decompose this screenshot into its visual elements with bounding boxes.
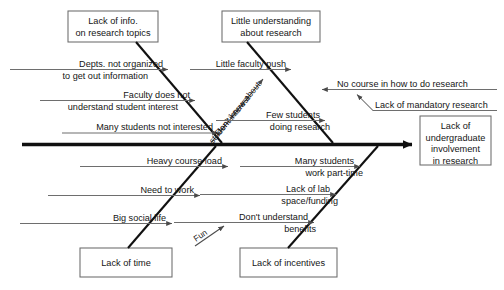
cause-label-many-students-work-part-time-line1: Many students [295, 156, 355, 166]
cause-big-social-life[interactable]: Big social life [20, 213, 172, 224]
cause-label-no-course-in-how-to-do-research-line1: No course in how to do research [337, 79, 468, 89]
cause-faculty-does-not-understand[interactable]: Faculty does not understand student inte… [40, 90, 195, 112]
cause-label-little-faculty-push-line1: Little faculty push [216, 59, 286, 69]
category-box-lack-of-incentives[interactable]: Lack of incentives [240, 248, 337, 277]
fishbone-diagram: Lack of undergraduate involvement in res… [0, 0, 504, 290]
cause-label-few-students-doing-research-line2: doing research [270, 122, 330, 132]
cause-many-students-work-part-time[interactable]: Many students work part-time [240, 156, 363, 178]
cause-label-need-to-work-line1: Need to work [140, 185, 194, 195]
cause-label-lack-of-lab-space-funding-line1: Lack of lab [286, 184, 330, 194]
cause-label-heavy-course-load-line1: Heavy course load [147, 156, 222, 166]
category-box-lack-of-info[interactable]: Lack of info. on research topics [68, 11, 158, 42]
cause-dont-understand-benefits[interactable]: Don't understand benefits [174, 212, 316, 234]
cause-no-course-in-how-to-do-research[interactable]: No course in how to do research [322, 79, 497, 90]
cause-label-many-students-work-part-time-line2: work part-time [304, 168, 363, 178]
cause-label-faculty-does-not-understand-line1: Faculty does not [123, 90, 190, 100]
effect-label-line2: undergraduate [426, 133, 486, 143]
cause-depts-not-organized[interactable]: Depts. not organized to get out informat… [10, 59, 168, 81]
cause-lack-of-mandatory-research[interactable]: Lack of mandatory research [357, 95, 497, 111]
effect-label-line3: involvement [431, 144, 480, 154]
cause-dont-know-about-student-interest[interactable]: Don't know about student interest [207, 79, 263, 145]
cause-label-lack-of-lab-space-funding-line2: space/funding [281, 196, 338, 206]
cause-label-fun-line1: Fun [191, 227, 209, 244]
cause-heavy-course-load[interactable]: Heavy course load [80, 156, 228, 167]
category-label-lack-of-info-line2: on research topics [75, 28, 150, 38]
cause-label-faculty-does-not-understand-line2: understand student interest [68, 102, 179, 112]
cause-lack-of-lab-space-funding[interactable]: Lack of lab space/funding [200, 184, 338, 206]
cause-little-faculty-push[interactable]: Little faculty push [190, 59, 291, 70]
cause-label-dont-understand-benefits-line1: Don't understand [239, 212, 308, 222]
category-box-little-understanding[interactable]: Little understanding about research [222, 11, 320, 42]
cause-label-depts-not-organized-line2: to get out information [63, 71, 148, 81]
cause-label-lack-of-mandatory-research-line1: Lack of mandatory research [375, 100, 488, 110]
cause-fun[interactable]: Fun [191, 226, 224, 246]
effect-label-line4: in research [433, 156, 478, 166]
fishbone-canvas: Lack of undergraduate involvement in res… [0, 0, 504, 290]
effect-head-box[interactable]: Lack of undergraduate involvement in res… [420, 116, 491, 166]
cause-many-students-not-interested[interactable]: Many students not interested [62, 122, 218, 134]
effect-label-line1: Lack of [441, 121, 471, 131]
cause-need-to-work[interactable]: Need to work [48, 185, 200, 196]
cause-label-big-social-life-line1: Big social life [113, 213, 166, 223]
cause-label-depts-not-organized-line1: Depts. not organized [79, 59, 163, 69]
cause-label-few-students-doing-research-line1: Few students [266, 110, 321, 120]
category-box-lack-of-time[interactable]: Lack of time [80, 248, 172, 277]
cause-label-dont-know-about-student-interest-line2: student interest [207, 93, 252, 145]
category-label-lack-of-time-line1: Lack of time [101, 258, 151, 268]
category-label-lack-of-info-line1: Lack of info. [88, 16, 138, 26]
category-label-little-understanding-line1: Little understanding [231, 16, 311, 26]
category-label-little-understanding-line2: about research [240, 28, 301, 38]
cause-label-many-students-not-interested-line1: Many students not interested [96, 122, 213, 132]
category-label-lack-of-incentives-line1: Lack of incentives [252, 258, 325, 268]
cause-label-dont-understand-benefits-line2: benefits [284, 224, 316, 234]
